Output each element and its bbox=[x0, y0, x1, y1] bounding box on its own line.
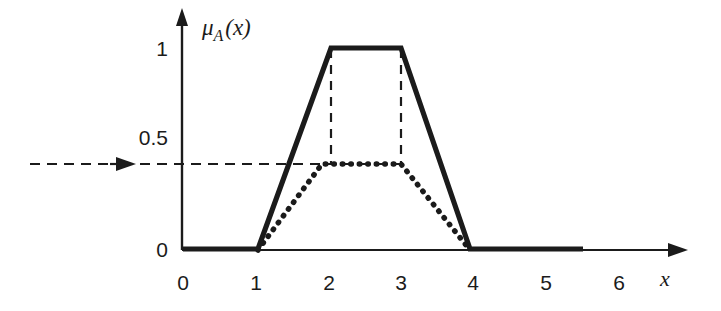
alpha-cut-clipped-curve bbox=[258, 164, 470, 250]
plot-canvas bbox=[0, 0, 721, 311]
membership-function-curve bbox=[183, 48, 583, 249]
mu-argument: (x) bbox=[225, 15, 251, 40]
y-axis-arrowhead bbox=[176, 8, 188, 26]
x-axis-label: x bbox=[660, 268, 670, 290]
y-tick-label-1: 1 bbox=[120, 38, 168, 59]
y-axis-label: μA (x) bbox=[202, 16, 251, 44]
y-axis bbox=[176, 8, 188, 250]
fuzzy-membership-figure: μA (x) x 1 0.5 0 0 1 2 3 4 5 6 bbox=[0, 0, 721, 311]
alpha-arrowhead bbox=[116, 157, 136, 171]
x-tick-label-3: 3 bbox=[395, 272, 407, 293]
x-tick-label-2: 2 bbox=[323, 272, 335, 293]
x-tick-label-1: 1 bbox=[250, 272, 262, 293]
x-tick-label-6: 6 bbox=[613, 272, 625, 293]
x-tick-label-4: 4 bbox=[467, 272, 479, 293]
mu-subscript: A bbox=[214, 27, 224, 44]
x-tick-label-5: 5 bbox=[540, 272, 552, 293]
y-tick-label-0-5: 0.5 bbox=[100, 127, 168, 148]
x-axis-arrowhead bbox=[668, 243, 688, 257]
y-tick-label-0: 0 bbox=[120, 239, 168, 260]
mu-symbol: μ bbox=[202, 15, 214, 40]
x-tick-label-0: 0 bbox=[177, 272, 189, 293]
alpha-level-indicator bbox=[30, 157, 402, 171]
